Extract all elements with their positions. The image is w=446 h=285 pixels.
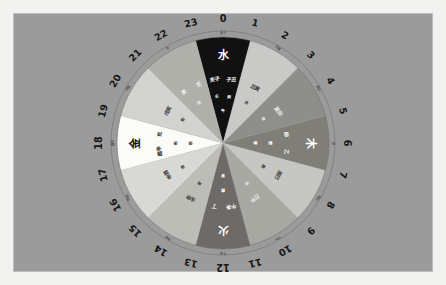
sector-label: 水 [218, 48, 230, 62]
hour-label-12: 12 [216, 262, 229, 273]
hour-label-9: 9 [305, 225, 318, 238]
sector-label: 壬 [215, 94, 220, 99]
hour-label-23: 23 [183, 16, 199, 30]
hour-label-18: 18 [93, 136, 104, 150]
hour-label-7: 7 [337, 171, 349, 180]
sector-rim-label: 酉辛 [110, 139, 115, 146]
wuxing-wheel: 水亥子子丑壬癸冬亥子丑寅艮丑寅寅卯甲寅卯木卯乙震春卯辰巳巽辰巳巳午丙巳午火午未丁… [0, 0, 446, 285]
hour-label-11: 11 [247, 256, 263, 270]
hour-label-22: 22 [152, 27, 169, 43]
hour-label-5: 5 [337, 106, 349, 115]
hour-label-14: 14 [152, 243, 169, 259]
hour-label-17: 17 [96, 167, 110, 183]
hour-label-13: 13 [183, 256, 199, 270]
hour-label-1: 1 [251, 17, 261, 29]
sector-rim-label: 申酉 [123, 193, 131, 202]
sector-label: 金 [128, 137, 142, 150]
sector-rim-label: 巳午 [273, 235, 282, 243]
sector-label: 夏 [221, 173, 226, 178]
sector-label: 離 [221, 188, 225, 193]
hour-label-21: 21 [126, 46, 143, 63]
wheel-svg: 水亥子子丑壬癸冬亥子丑寅艮丑寅寅卯甲寅卯木卯乙震春卯辰巳巽辰巳巳午丙巳午火午未丁… [0, 0, 446, 285]
sector-label: 木 [304, 137, 318, 150]
image-canvas: 水亥子子丑壬癸冬亥子丑寅艮丑寅寅卯甲寅卯木卯乙震春卯辰巳巽辰巳巳午丙巳午火午未丁… [0, 0, 446, 285]
hour-label-16: 16 [107, 196, 123, 213]
sector-label: 癸 [225, 93, 231, 99]
hour-label-15: 15 [126, 222, 143, 239]
hour-label-3: 3 [305, 49, 318, 62]
sector-rim-label: 亥子 [220, 30, 227, 35]
sector-label: 春 [253, 140, 258, 145]
hour-label-20: 20 [107, 72, 123, 89]
hour-label-10: 10 [276, 243, 293, 259]
sector-label: 秋 [188, 141, 193, 146]
hour-label-19: 19 [96, 103, 110, 119]
hour-label-0: 0 [220, 13, 227, 24]
hour-label-6: 6 [342, 140, 353, 147]
sector-label: 火 [217, 224, 229, 237]
hour-label-2: 2 [280, 29, 291, 42]
sector-label: 冬 [221, 108, 225, 113]
sector-rim-label: 午未 [219, 251, 226, 256]
sector-label: 秋 [173, 141, 178, 146]
hour-label-4: 4 [324, 75, 337, 87]
hour-label-8: 8 [324, 200, 337, 212]
